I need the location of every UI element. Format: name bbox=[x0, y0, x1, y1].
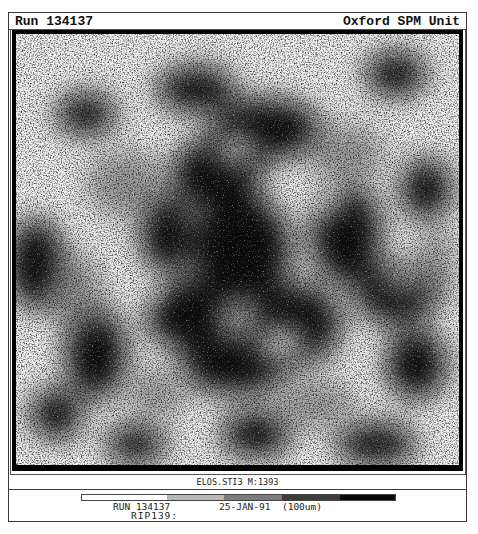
colorbar-segment-mid-gray bbox=[224, 495, 282, 500]
colorbar-segment-light-gray bbox=[167, 495, 224, 500]
footer-date: 25-JAN-91 bbox=[219, 501, 270, 512]
footer-scale: (100um) bbox=[282, 501, 322, 512]
colorbar-segment-dark-gray bbox=[282, 495, 340, 500]
colorbar-segment-white bbox=[82, 495, 167, 500]
footer-rip: RIP139: bbox=[131, 511, 178, 521]
run-title: Run 134137 bbox=[15, 14, 93, 29]
colorbar-segment-black bbox=[340, 495, 395, 500]
footer-date-scale: 25-JAN-91 (100um) bbox=[219, 502, 322, 512]
intensity-map-graphic bbox=[16, 34, 459, 465]
title-bar: Run 134137 Oxford SPM Unit bbox=[9, 13, 466, 30]
image-caption: ELOS.STI3 M:1393 bbox=[9, 476, 466, 489]
spm-figure-frame: Run 134137 Oxford SPM Unit bbox=[8, 12, 467, 522]
spm-intensity-map bbox=[12, 30, 463, 471]
intensity-colorbar bbox=[81, 494, 396, 501]
divider-line bbox=[9, 489, 466, 490]
unit-title: Oxford SPM Unit bbox=[343, 14, 460, 29]
